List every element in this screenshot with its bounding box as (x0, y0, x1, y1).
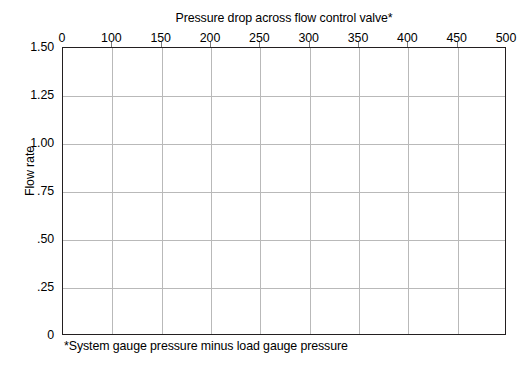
gridline-vertical (310, 48, 311, 334)
gridline-horizontal (63, 240, 505, 241)
gridline-vertical (458, 48, 459, 334)
gridline-vertical (211, 48, 212, 334)
y-tick-label: .75 (37, 184, 54, 198)
gridline-horizontal (63, 192, 505, 193)
y-tick-label: 1.25 (30, 88, 54, 102)
chart-figure: Pressure drop across flow control valve*… (0, 0, 532, 370)
y-tick-label: 1.50 (30, 40, 54, 54)
gridline-vertical (408, 48, 409, 334)
gridlines (63, 48, 505, 334)
y-tick-label: .50 (37, 232, 54, 246)
gridline-horizontal (63, 144, 505, 145)
chart-footnote: *System gauge pressure minus load gauge … (64, 339, 348, 354)
y-tick-label: .25 (37, 280, 54, 294)
y-tick-label: 0 (47, 328, 54, 342)
gridline-vertical (162, 48, 163, 334)
gridline-horizontal (63, 288, 505, 289)
x-axis-title: Pressure drop across flow control valve* (62, 11, 506, 26)
y-tick-label: 1.00 (30, 136, 54, 150)
y-axis-tick-labels: 1.501.251.00.75.50.250 (0, 0, 62, 370)
gridline-vertical (260, 48, 261, 334)
gridline-horizontal (63, 96, 505, 97)
gridline-vertical (359, 48, 360, 334)
gridline-vertical (112, 48, 113, 334)
plot-area (62, 47, 506, 335)
